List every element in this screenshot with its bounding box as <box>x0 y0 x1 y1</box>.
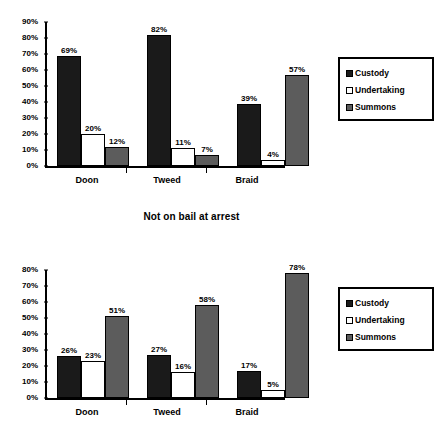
legend-item-custody[interactable]: Custody <box>346 65 425 81</box>
y-tick-label: 60% <box>22 298 38 306</box>
legend-item-summons[interactable]: Summons <box>346 329 425 345</box>
category-cell: Doon <box>47 400 127 422</box>
bar-undertaking-braid[interactable]: 5% <box>261 390 285 398</box>
x-axis-categories-bottom: Doon Tweed Braid <box>47 400 443 422</box>
chart-page: 90% 80% 70% 60% 50% 40% 30% 20% 10% 0% <box>0 0 443 438</box>
category-label-braid: Braid <box>207 175 287 185</box>
bar-value-label: 11% <box>175 139 191 147</box>
bar-value-label: 78% <box>289 264 305 272</box>
bar-value-label: 26% <box>61 347 77 355</box>
legend-label: Undertaking <box>355 86 405 95</box>
y-tick-label: 70% <box>22 50 38 58</box>
y-tick-label: 30% <box>22 346 38 354</box>
undertaking-swatch-icon <box>346 317 353 324</box>
y-tick-label: 0% <box>26 394 38 402</box>
bar-value-label: 39% <box>241 95 257 103</box>
y-tick-label: 80% <box>22 266 38 274</box>
bar-undertaking-braid[interactable]: 4% <box>261 160 285 166</box>
category-cell: Tweed <box>127 168 207 190</box>
category-label-braid: Braid <box>207 407 287 417</box>
legend-label: Custody <box>355 299 389 308</box>
legend-label: Summons <box>355 333 396 342</box>
bar-undertaking-doon[interactable]: 20% <box>81 134 105 166</box>
y-tick-label: 40% <box>22 98 38 106</box>
bar-value-label: 51% <box>109 307 125 315</box>
category-label-doon: Doon <box>47 407 127 417</box>
category-cell: Braid <box>207 168 287 190</box>
y-tick-label: 10% <box>22 378 38 386</box>
legend-bottom: Custody Undertaking Summons <box>338 287 434 351</box>
category-label-doon: Doon <box>47 175 127 185</box>
bar-group-doon: 26% 23% 51% <box>47 270 137 398</box>
bar-custody-doon[interactable]: 69% <box>57 56 81 166</box>
y-tick-label: 90% <box>22 18 38 26</box>
bar-summons-tweed[interactable]: 7% <box>195 155 219 166</box>
y-tick-label: 50% <box>22 82 38 90</box>
bar-group-doon: 69% 20% 12% <box>47 22 137 166</box>
bar-value-label: 7% <box>201 146 213 154</box>
legend-top: Custody Undertaking Summons <box>338 57 434 121</box>
legend-item-custody[interactable]: Custody <box>346 295 425 311</box>
bar-custody-doon[interactable]: 26% <box>57 356 81 398</box>
bar-custody-braid[interactable]: 39% <box>237 104 261 166</box>
bar-value-label: 16% <box>175 363 191 371</box>
chart-title: Not on bail at arrest <box>0 210 443 224</box>
bar-undertaking-tweed[interactable]: 11% <box>171 148 195 166</box>
bar-value-label: 27% <box>151 346 167 354</box>
x-axis-categories-top: Doon Tweed Braid <box>47 168 443 190</box>
bar-summons-doon[interactable]: 51% <box>105 316 129 398</box>
legend-label: Custody <box>355 69 389 78</box>
summons-swatch-icon <box>346 334 353 341</box>
bar-value-label: 5% <box>267 381 279 389</box>
bar-value-label: 57% <box>289 66 305 74</box>
bar-value-label: 12% <box>109 138 125 146</box>
bar-summons-tweed[interactable]: 58% <box>195 305 219 398</box>
undertaking-swatch-icon <box>346 87 353 94</box>
bar-value-label: 69% <box>61 47 77 55</box>
y-tick-label: 20% <box>22 362 38 370</box>
bar-value-label: 82% <box>151 26 167 34</box>
category-cell: Tweed <box>127 400 207 422</box>
bar-custody-braid[interactable]: 17% <box>237 371 261 398</box>
y-tick-label: 30% <box>22 114 38 122</box>
bar-value-label: 20% <box>85 125 101 133</box>
legend-item-undertaking[interactable]: Undertaking <box>346 82 425 98</box>
bar-value-label: 4% <box>267 151 279 159</box>
bar-group-braid: 17% 5% 78% <box>227 270 317 398</box>
custody-swatch-icon <box>346 300 353 307</box>
custody-swatch-icon <box>346 70 353 77</box>
bar-value-label: 58% <box>199 296 215 304</box>
y-tick-label: 60% <box>22 66 38 74</box>
y-tick-label: 20% <box>22 130 38 138</box>
bar-summons-doon[interactable]: 12% <box>105 147 129 166</box>
y-tick-label: 50% <box>22 314 38 322</box>
bar-summons-braid[interactable]: 57% <box>285 75 309 166</box>
legend-label: Undertaking <box>355 316 405 325</box>
category-label-tweed: Tweed <box>127 407 207 417</box>
category-label-tweed: Tweed <box>127 175 207 185</box>
bar-undertaking-doon[interactable]: 23% <box>81 361 105 398</box>
category-cell: Doon <box>47 168 127 190</box>
bar-summons-braid[interactable]: 78% <box>285 273 309 398</box>
legend-item-summons[interactable]: Summons <box>346 99 425 115</box>
y-tick-label: 0% <box>26 162 38 170</box>
legend-item-undertaking[interactable]: Undertaking <box>346 312 425 328</box>
bar-group-braid: 39% 4% 57% <box>227 22 317 166</box>
bar-value-label: 17% <box>241 362 257 370</box>
bar-group-tweed: 27% 16% 58% <box>137 270 227 398</box>
bar-undertaking-tweed[interactable]: 16% <box>171 372 195 398</box>
bar-value-label: 23% <box>85 352 101 360</box>
y-tick-label: 40% <box>22 330 38 338</box>
y-tick-label: 10% <box>22 146 38 154</box>
legend-label: Summons <box>355 103 396 112</box>
bar-group-tweed: 82% 11% 7% <box>137 22 227 166</box>
bar-custody-tweed[interactable]: 27% <box>147 355 171 398</box>
y-tick-label: 70% <box>22 282 38 290</box>
summons-swatch-icon <box>346 104 353 111</box>
category-cell: Braid <box>207 400 287 422</box>
y-tick-label: 80% <box>22 34 38 42</box>
bar-custody-tweed[interactable]: 82% <box>147 35 171 166</box>
